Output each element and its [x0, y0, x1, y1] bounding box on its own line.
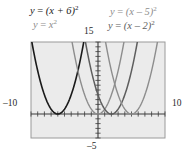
plot-canvas — [0, 0, 192, 160]
curve-label-x-squared-exponent: 2 — [54, 18, 58, 26]
curve-label-x-squared-eq: = — [40, 19, 46, 30]
curve-label-x-minus-2-lhs: y — [108, 20, 113, 31]
x-axis-min-label: –10 — [3, 99, 17, 109]
curve-label-x-squared: y = x2 — [33, 20, 57, 31]
curve-label-x-minus-2-exponent: 2 — [151, 19, 155, 27]
y-axis-max-label: 15 — [84, 27, 94, 37]
curve-label-x-minus-5: y = (x – 5)2 — [110, 7, 157, 18]
curve-label-x-minus-5-body: (x – 5) — [126, 6, 153, 17]
curve-label-x-squared-lhs: y — [33, 19, 38, 30]
parabola-transformations-figure: y = (x + 6)2 y = x2 y = (x – 5)2 y = (x … — [0, 0, 192, 160]
curve-label-x-minus-5-lhs: y — [110, 6, 115, 17]
curve-label-x-plus-6-eq: = — [37, 5, 43, 16]
curve-label-x-plus-6-body: (x + 6) — [46, 5, 75, 16]
curve-label-x-minus-2-eq: = — [115, 20, 121, 31]
curve-label-x-plus-6-lhs: y — [30, 5, 35, 16]
curve-label-x-plus-6: y = (x + 6)2 — [30, 6, 79, 17]
x-axis-max-label: 10 — [172, 99, 182, 109]
curve-label-x-plus-6-exponent: 2 — [75, 4, 79, 12]
curve-label-x-minus-5-exponent: 2 — [153, 5, 157, 13]
curve-label-x-minus-5-eq: = — [117, 6, 123, 17]
curve-label-x-minus-2-body: (x – 2) — [124, 20, 151, 31]
y-axis-min-label: –5 — [87, 142, 97, 152]
curve-label-x-minus-2: y = (x – 2)2 — [108, 21, 155, 32]
